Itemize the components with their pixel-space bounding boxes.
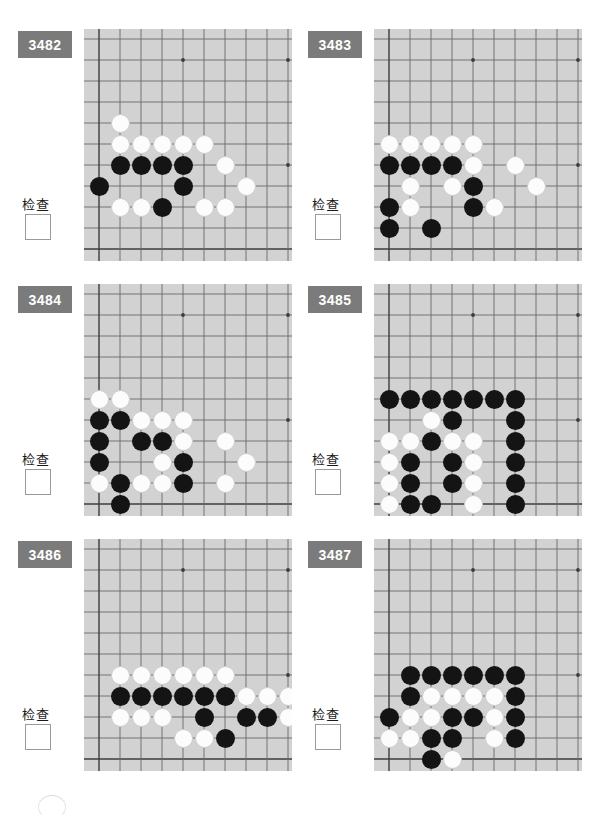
check-checkbox[interactable] (315, 214, 341, 240)
white-stone[interactable] (111, 114, 130, 133)
white-stone[interactable] (216, 474, 235, 493)
go-board[interactable] (84, 539, 292, 771)
white-stone[interactable] (422, 687, 441, 706)
white-stone[interactable] (111, 666, 130, 685)
white-stone[interactable] (485, 687, 504, 706)
black-stone[interactable] (401, 687, 420, 706)
white-stone[interactable] (443, 750, 462, 769)
black-stone[interactable] (422, 432, 441, 451)
black-stone[interactable] (132, 156, 151, 175)
check-checkbox[interactable] (25, 214, 51, 240)
white-stone[interactable] (422, 411, 441, 430)
black-stone[interactable] (506, 453, 525, 472)
black-stone[interactable] (237, 708, 256, 727)
black-stone[interactable] (380, 390, 399, 409)
black-stone[interactable] (111, 495, 130, 514)
white-stone[interactable] (380, 453, 399, 472)
check-checkbox[interactable] (25, 469, 51, 495)
white-stone[interactable] (279, 687, 293, 706)
black-stone[interactable] (506, 390, 525, 409)
black-stone[interactable] (443, 729, 462, 748)
white-stone[interactable] (132, 198, 151, 217)
white-stone[interactable] (195, 729, 214, 748)
black-stone[interactable] (132, 687, 151, 706)
white-stone[interactable] (90, 474, 109, 493)
black-stone[interactable] (422, 750, 441, 769)
check-checkbox[interactable] (25, 724, 51, 750)
black-stone[interactable] (132, 432, 151, 451)
black-stone[interactable] (401, 390, 420, 409)
black-stone[interactable] (174, 177, 193, 196)
white-stone[interactable] (380, 729, 399, 748)
white-stone[interactable] (153, 708, 172, 727)
go-board[interactable] (374, 29, 582, 261)
white-stone[interactable] (401, 177, 420, 196)
black-stone[interactable] (380, 708, 399, 727)
white-stone[interactable] (153, 474, 172, 493)
black-stone[interactable] (506, 729, 525, 748)
white-stone[interactable] (132, 474, 151, 493)
black-stone[interactable] (506, 432, 525, 451)
black-stone[interactable] (153, 198, 172, 217)
white-stone[interactable] (153, 135, 172, 154)
white-stone[interactable] (111, 390, 130, 409)
white-stone[interactable] (174, 135, 193, 154)
white-stone[interactable] (174, 729, 193, 748)
black-stone[interactable] (506, 474, 525, 493)
black-stone[interactable] (506, 708, 525, 727)
black-stone[interactable] (443, 708, 462, 727)
white-stone[interactable] (401, 729, 420, 748)
white-stone[interactable] (464, 135, 483, 154)
black-stone[interactable] (401, 495, 420, 514)
black-stone[interactable] (216, 729, 235, 748)
black-stone[interactable] (485, 666, 504, 685)
white-stone[interactable] (443, 135, 462, 154)
white-stone[interactable] (174, 666, 193, 685)
white-stone[interactable] (443, 177, 462, 196)
black-stone[interactable] (380, 198, 399, 217)
white-stone[interactable] (464, 474, 483, 493)
black-stone[interactable] (443, 390, 462, 409)
black-stone[interactable] (464, 666, 483, 685)
white-stone[interactable] (485, 198, 504, 217)
white-stone[interactable] (174, 411, 193, 430)
white-stone[interactable] (279, 708, 293, 727)
white-stone[interactable] (401, 198, 420, 217)
white-stone[interactable] (132, 708, 151, 727)
black-stone[interactable] (443, 411, 462, 430)
black-stone[interactable] (401, 156, 420, 175)
white-stone[interactable] (153, 666, 172, 685)
go-board[interactable] (84, 284, 292, 516)
white-stone[interactable] (380, 474, 399, 493)
white-stone[interactable] (195, 135, 214, 154)
black-stone[interactable] (90, 177, 109, 196)
white-stone[interactable] (153, 411, 172, 430)
black-stone[interactable] (506, 687, 525, 706)
white-stone[interactable] (132, 135, 151, 154)
black-stone[interactable] (506, 411, 525, 430)
white-stone[interactable] (380, 432, 399, 451)
check-checkbox[interactable] (315, 469, 341, 495)
go-board[interactable] (84, 29, 292, 261)
black-stone[interactable] (174, 156, 193, 175)
white-stone[interactable] (464, 495, 483, 514)
black-stone[interactable] (216, 687, 235, 706)
go-board[interactable] (374, 539, 582, 771)
white-stone[interactable] (111, 198, 130, 217)
black-stone[interactable] (153, 432, 172, 451)
black-stone[interactable] (153, 156, 172, 175)
black-stone[interactable] (380, 219, 399, 238)
white-stone[interactable] (132, 666, 151, 685)
black-stone[interactable] (506, 495, 525, 514)
white-stone[interactable] (464, 453, 483, 472)
black-stone[interactable] (401, 453, 420, 472)
white-stone[interactable] (422, 135, 441, 154)
white-stone[interactable] (237, 177, 256, 196)
white-stone[interactable] (443, 687, 462, 706)
white-stone[interactable] (380, 495, 399, 514)
black-stone[interactable] (464, 708, 483, 727)
white-stone[interactable] (195, 198, 214, 217)
black-stone[interactable] (485, 390, 504, 409)
white-stone[interactable] (401, 432, 420, 451)
white-stone[interactable] (464, 156, 483, 175)
